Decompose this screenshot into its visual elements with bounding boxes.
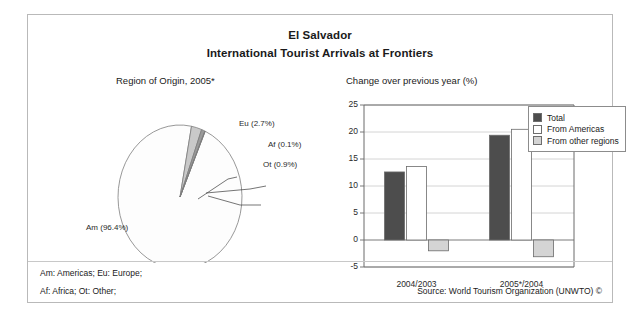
y-axis-tick-label: 20	[334, 126, 358, 136]
bar-from-americas	[407, 167, 427, 240]
legend-item-total: Total	[533, 113, 619, 123]
pie-label-africa: Af (0.1%)	[268, 140, 301, 149]
figure-panel: El Salvador International Tourist Arriva…	[27, 14, 613, 303]
abbreviation-note-line-1: Am: Americas; Eu: Europe;	[40, 268, 142, 278]
source-note: Source: World Tourism Organization (UNWT…	[417, 286, 602, 296]
bar-from-other-regions	[429, 240, 449, 251]
pie-chart: Eu (2.7%) Af (0.1%) Ot (0.9%) Am (96.4%)	[28, 93, 318, 263]
figure-title: El Salvador	[28, 29, 612, 41]
bar-total	[385, 172, 405, 240]
legend-item-from-americas: From Americas	[533, 124, 619, 134]
legend-swatch-from-americas	[533, 125, 542, 134]
figure-subtitle: International Tourist Arrivals at Fronti…	[28, 47, 612, 59]
bar-from-other-regions	[534, 240, 554, 257]
chart-legend: Total From Americas From other regions	[528, 106, 626, 152]
y-axis-tick-label: 10	[334, 180, 358, 190]
legend-item-from-other-regions: From other regions	[533, 136, 619, 146]
y-axis-tick-label: 0	[334, 234, 358, 244]
legend-label-from-other-regions: From other regions	[547, 136, 619, 146]
legend-label-from-americas: From Americas	[547, 124, 604, 134]
legend-label-total: Total	[547, 113, 565, 123]
pie-chart-title: Region of Origin, 2005*	[116, 75, 215, 86]
y-axis-tick-label: 5	[334, 207, 358, 217]
pie-label-europe: Eu (2.7%)	[239, 119, 275, 128]
legend-swatch-total	[533, 113, 542, 122]
y-axis-tick-label: 25	[334, 99, 358, 109]
abbreviation-note-line-2: Af: Africa; Ot: Other;	[40, 286, 116, 296]
pie-slices	[118, 125, 242, 263]
y-axis-tick-label: 15	[334, 153, 358, 163]
bar-total	[490, 135, 510, 240]
pie-slice-am	[118, 125, 242, 263]
pie-label-americas: Am (96.4%)	[86, 223, 128, 232]
pie-label-other: Ot (0.9%)	[263, 160, 297, 169]
y-axis-tick-label: -5	[334, 261, 358, 271]
legend-swatch-from-other-regions	[533, 136, 542, 145]
footer-divider	[28, 261, 612, 262]
bar-chart-title: Change over previous year (%)	[346, 75, 477, 86]
